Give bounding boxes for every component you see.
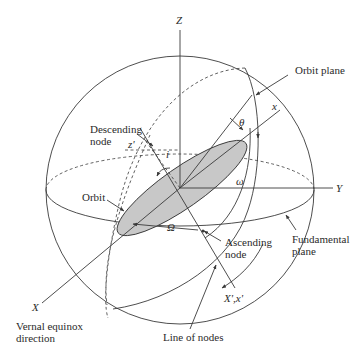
y-axis-label: Y <box>336 182 344 194</box>
orbit-x-label: x <box>271 100 277 112</box>
orbit-label: Orbit <box>82 191 105 203</box>
orbital-elements-diagram: Z Y X x X',x' θ ω Ω i z' Orbit plane Des… <box>0 0 361 363</box>
descending-node-label-2: node <box>90 135 112 147</box>
omega-capital-label: Ω <box>167 221 175 233</box>
ascending-node-label-2: node <box>225 248 247 260</box>
ascending-node-point <box>201 229 204 232</box>
x-axis-label: X <box>31 301 40 313</box>
fundamental-plane-label-1: Fundamental <box>292 233 349 245</box>
orbit-plane-label: Orbit plane <box>295 64 345 76</box>
fundamental-plane-label-2: plane <box>292 245 316 257</box>
fundamental-plane-leader <box>286 215 296 230</box>
x-axis <box>42 188 180 303</box>
ascending-node-label-1: Ascending <box>225 236 273 248</box>
z-prime-label: z' <box>127 138 135 150</box>
node-line-label: X',x' <box>223 292 244 304</box>
orbit-x-axis <box>180 110 280 188</box>
vernal-equinox-label-2: direction <box>16 332 56 344</box>
z-axis-label: Z <box>176 14 183 26</box>
orbit-leader <box>107 200 124 211</box>
descending-node-label-1: Descending <box>90 123 142 135</box>
inclination-label: i <box>166 148 169 160</box>
omega-small-label: ω <box>236 175 244 187</box>
line-of-nodes-leader <box>190 265 216 329</box>
line-of-nodes-label: Line of nodes <box>163 331 223 343</box>
vernal-equinox-label-1: Vernal equinox <box>16 320 83 332</box>
theta-label: θ <box>239 116 245 128</box>
